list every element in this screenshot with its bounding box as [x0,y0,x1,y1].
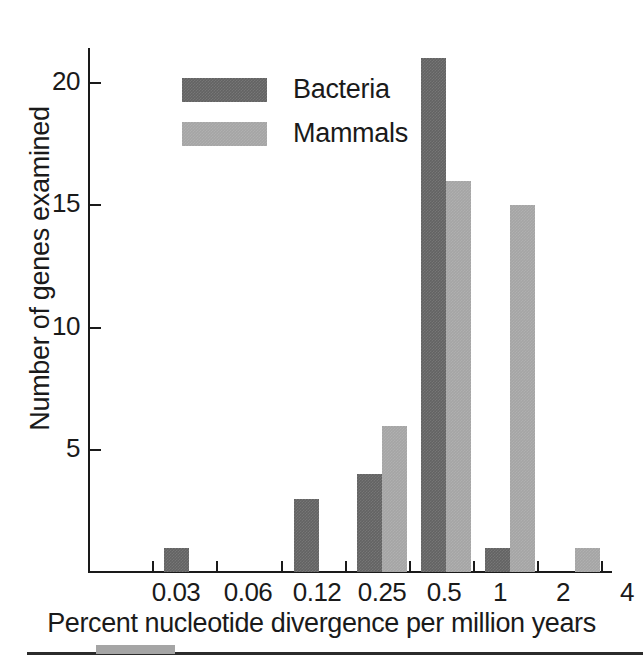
x-tick-label-0.5: 0.5 [427,578,462,606]
legend-swatch-mammals [182,122,267,146]
x-tick-label-2: 2 [556,578,570,606]
x-tick-label-0.03: 0.03 [152,578,201,606]
x-tick-label-1: 1 [493,578,507,606]
bar-mammals-2 [510,205,535,572]
bar-bacteria-0.03 [164,548,189,572]
bar-bacteria-0.12 [294,499,319,572]
bar-mammals-0.25 [382,426,407,572]
y-axis-title: Number of genes examined [27,19,54,519]
bar-bacteria-0.25 [357,474,382,572]
x-tick-label-0.06: 0.06 [224,578,273,606]
bar-bacteria-0.5 [421,58,446,572]
legend-entry-bacteria: Bacteria [182,76,390,103]
legend-label-bacteria: Bacteria [293,76,390,103]
bar-mammals-0.5 [446,181,471,572]
x-tick-label-0.25: 0.25 [358,578,407,606]
bar-mammals-4 [575,548,600,572]
figure-histogram-nucleotide-divergence: 20 15 10 5 0.03 0.06 0.12 0.25 0.5 1 2 4 [0,0,643,658]
legend-swatch-bacteria [182,78,267,102]
x-tick-label-4: 4 [620,578,634,606]
bar-bacteria-1 [485,548,510,572]
legend-label-mammals: Mammals [293,120,408,147]
next-figure-bar-fragment [96,645,175,654]
legend-entry-mammals: Mammals [182,120,408,147]
x-axis-title: Percent nucleotide divergence per millio… [0,608,643,638]
x-tick-label-0.12: 0.12 [293,578,342,606]
